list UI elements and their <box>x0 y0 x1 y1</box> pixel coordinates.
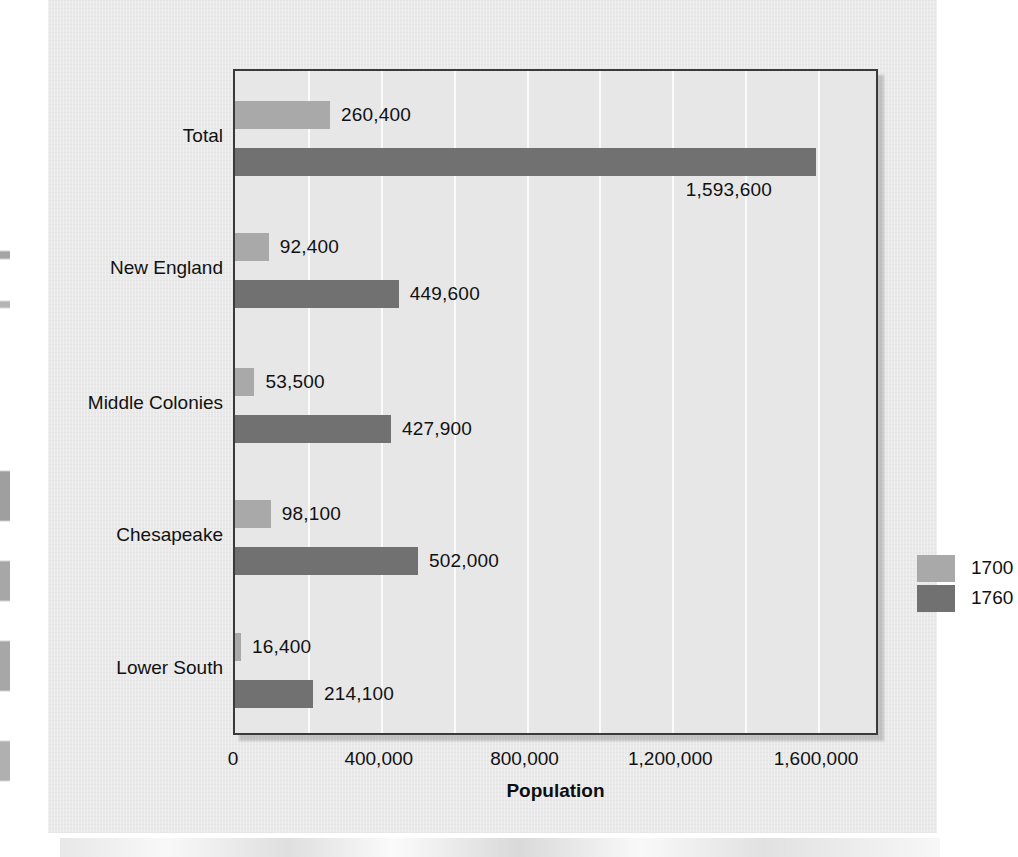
chart-legend: 17001760 <box>917 553 1018 613</box>
chart-plot-area: 260,4001,593,60092,400449,60053,500427,9… <box>233 69 878 735</box>
x-tick-1600000: 1,600,000 <box>774 748 859 770</box>
bar-new-england-1700 <box>235 233 269 261</box>
bar-lower-south-1760 <box>235 680 313 708</box>
scanner-edge-artifact <box>0 0 10 857</box>
bar-value-label: 502,000 <box>429 550 499 572</box>
bar-value-label: 16,400 <box>252 636 311 658</box>
bar-value-label: 260,400 <box>341 104 411 126</box>
bar-middle-colonies-1760 <box>235 415 391 443</box>
bar-value-label: 92,400 <box>280 236 339 258</box>
gridline <box>818 71 820 733</box>
bar-lower-south-1700 <box>235 633 241 661</box>
x-axis-tick-labels: 0400,000800,0001,200,0001,600,000 <box>233 748 878 774</box>
category-label-lower-south: Lower South <box>116 657 223 679</box>
bar-chesapeake-1700 <box>235 500 271 528</box>
bar-total-1700 <box>235 101 330 129</box>
bar-new-england-1760 <box>235 280 399 308</box>
bar-value-label: 449,600 <box>410 283 480 305</box>
legend-label-1760: 1760 <box>971 587 1013 609</box>
x-tick-0: 0 <box>228 748 239 770</box>
bar-value-label: 427,900 <box>402 418 472 440</box>
bar-value-label: 98,100 <box>282 503 341 525</box>
page-bottom-text-smudge <box>60 838 940 857</box>
bar-middle-colonies-1700 <box>235 368 254 396</box>
category-label-middle-colonies: Middle Colonies <box>88 392 223 414</box>
x-tick-1200000: 1,200,000 <box>628 748 713 770</box>
category-label-new-england: New England <box>110 257 223 279</box>
x-tick-400000: 400,000 <box>344 748 413 770</box>
legend-label-1700: 1700 <box>971 557 1013 579</box>
legend-item-1700: 1700 <box>917 553 1018 583</box>
bar-value-label: 53,500 <box>265 371 324 393</box>
bar-value-label: 214,100 <box>324 683 394 705</box>
category-label-chesapeake: Chesapeake <box>116 524 223 546</box>
bar-value-label: 1,593,600 <box>686 179 772 201</box>
bar-chesapeake-1760 <box>235 547 418 575</box>
category-label-total: Total <box>183 125 223 147</box>
bar-total-1760 <box>235 148 816 176</box>
legend-swatch-1700 <box>917 555 955 582</box>
category-axis-labels: TotalNew EnglandMiddle ColoniesChesapeak… <box>20 69 223 735</box>
x-axis-title: Population <box>233 780 878 802</box>
x-tick-800000: 800,000 <box>490 748 559 770</box>
legend-swatch-1760 <box>917 585 955 612</box>
legend-item-1760: 1760 <box>917 583 1018 613</box>
